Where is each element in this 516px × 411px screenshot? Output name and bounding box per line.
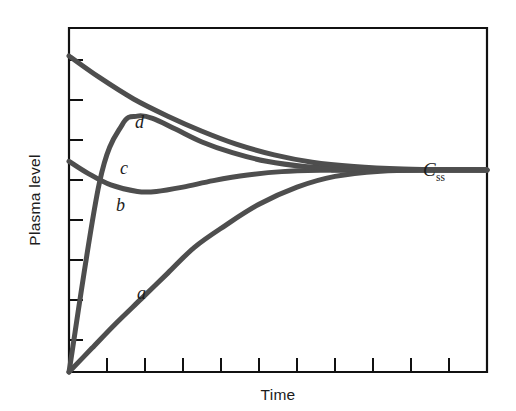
x-axis-ticks — [107, 358, 487, 372]
curve-label-a: a — [137, 283, 146, 303]
curve-d — [69, 56, 487, 170]
figure-root: a b c d C ss Time Plasma level — [0, 0, 516, 411]
css-label-subscript: ss — [436, 171, 445, 183]
curve-label-c: c — [120, 158, 128, 178]
axis-frame-box — [69, 28, 487, 372]
axis-frame — [69, 28, 487, 372]
y-axis-title: Plasma level — [26, 154, 43, 245]
x-axis-title: Time — [260, 386, 295, 403]
css-label-c: C — [423, 159, 436, 180]
curve-a — [69, 170, 487, 372]
curve-label-d: d — [135, 112, 145, 132]
plot-canvas: a b c d C ss Time Plasma level — [0, 0, 516, 411]
steady-state-annotation: C ss — [423, 159, 445, 183]
curve-label-b: b — [116, 195, 125, 215]
data-curves — [69, 56, 487, 372]
